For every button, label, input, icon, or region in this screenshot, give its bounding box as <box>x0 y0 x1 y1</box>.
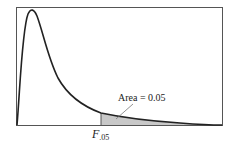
density-curve <box>17 10 222 125</box>
plot-frame <box>17 8 223 126</box>
area-annotation: Area = 0.05 <box>118 92 166 103</box>
f-distribution-chart <box>0 0 234 146</box>
tail-shaded-region <box>101 113 222 125</box>
f-subscript: .05 <box>99 133 109 142</box>
critical-value-label: F.05 <box>92 127 109 142</box>
